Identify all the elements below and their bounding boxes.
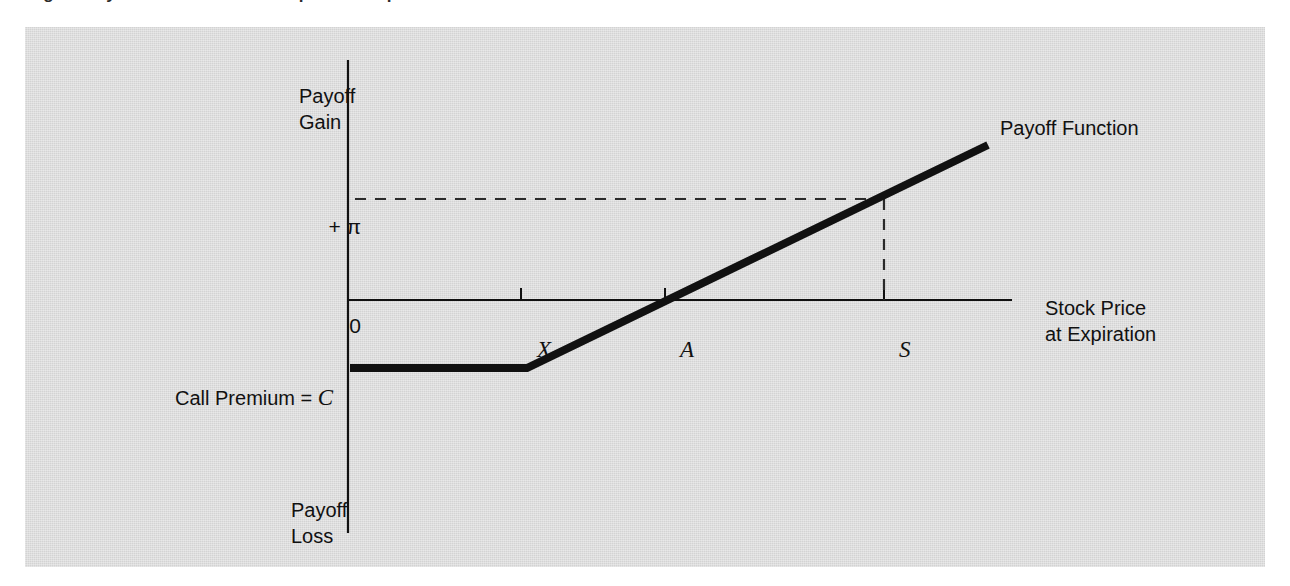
x-tick-label-breakeven: A [680,337,694,363]
y-axis-gain-label: PayoffGain [299,83,355,135]
x-axis-title-line1: Stock Price [1045,297,1146,319]
call-premium-symbol: C [318,385,333,410]
y-axis-gain-label-line1: Payoff [299,85,355,107]
call-premium-label: Call Premium = C [175,383,333,413]
y-tick-label-zero: 0 [281,312,361,339]
figure-caption: Figure Payoff and Profit to Call Option … [28,0,450,4]
y-axis-gain-label-line2: Gain [299,111,341,133]
figure-root: Figure Payoff and Profit to Call Option … [0,0,1290,586]
payoff-function-label: Payoff Function [1000,115,1139,141]
y-tick-label-pi: + π [281,213,361,240]
y-axis-loss-label-line1: Payoff [291,499,347,521]
chart-panel: PayoffGain PayoffLoss Stock Priceat Expi… [25,27,1265,567]
y-axis-loss-label-line2: Loss [291,525,333,547]
call-premium-label-text: Call Premium = [175,387,318,409]
figure-caption-strip: Figure Payoff and Profit to Call Option … [0,0,1290,20]
payoff-function-line [350,145,988,368]
x-axis-title: Stock Priceat Expiration [1045,295,1156,347]
x-tick-label-stock-price: S [899,337,911,363]
x-axis-title-line2: at Expiration [1045,323,1156,345]
y-axis-loss-label: PayoffLoss [291,497,347,549]
x-tick-label-strike: X [537,337,551,363]
